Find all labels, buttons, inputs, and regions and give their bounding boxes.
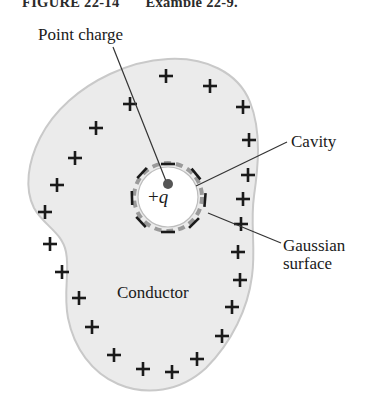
label-conductor: Conductor [117, 284, 189, 302]
plus-sign [43, 237, 57, 251]
minus-sign [204, 193, 205, 207]
charge-sign: + [148, 186, 159, 207]
label-charge-value: +q [148, 186, 168, 208]
label-gaussian-surface: Gaussian surface [283, 237, 345, 273]
label-cavity: Cavity [291, 133, 336, 151]
charge-symbol: q [159, 186, 169, 207]
label-point-charge: Point charge [38, 26, 123, 44]
diagram-canvas [0, 0, 375, 415]
figure-root: FIGURE 22-14Example 22-9. Point charge C… [0, 0, 375, 415]
